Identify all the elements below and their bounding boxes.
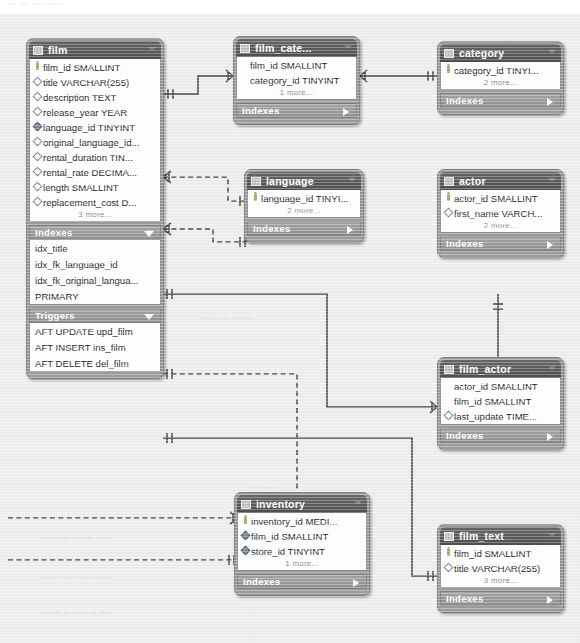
column-label: replacement_cost D... <box>43 197 136 208</box>
column-row[interactable]: rental_rate DECIMA... <box>30 165 160 180</box>
column-row[interactable]: film_id SMALLINT <box>441 546 560 561</box>
er-diagram-canvas[interactable]: •••••• ••• •••••••••••• •••• ••••••• •• … <box>0 14 580 643</box>
table-category[interactable]: categorycategory_id TINYI...2 more...Ind… <box>437 41 564 115</box>
chevron-right-icon[interactable] <box>343 108 349 116</box>
column-row[interactable]: rental_duration TIN... <box>30 150 160 165</box>
more-columns-label[interactable]: 3 more... <box>441 576 560 587</box>
section-label: Indexes <box>446 430 483 441</box>
column-row[interactable]: category_id TINYINT <box>237 73 356 88</box>
table-title-film[interactable]: film <box>29 41 161 59</box>
collapse-caret-icon[interactable] <box>548 178 556 182</box>
column-row[interactable]: film_id SMALLINT <box>238 529 366 544</box>
column-row[interactable]: replacement_cost D... <box>30 195 160 210</box>
column-row[interactable]: first_name VARCH... <box>441 206 560 221</box>
more-columns-label[interactable]: 2 more... <box>441 78 560 89</box>
chevron-right-icon[interactable] <box>347 226 353 234</box>
chevron-down-icon[interactable] <box>144 231 154 237</box>
more-columns-label[interactable]: 1 more... <box>238 559 366 570</box>
column-row[interactable]: release_year YEAR <box>30 105 160 120</box>
column-row[interactable]: store_id TINYINT <box>238 544 366 559</box>
section-row-item[interactable]: idx_fk_original_langua... <box>30 272 160 288</box>
collapse-caret-icon[interactable] <box>148 47 156 51</box>
column-diamond-icon <box>33 108 42 117</box>
chevron-right-icon[interactable] <box>547 433 553 441</box>
column-row[interactable]: inventory_id MEDI... <box>238 514 366 529</box>
table-film_text[interactable]: film_textfilm_id SMALLINTtitle VARCHAR(2… <box>437 524 564 613</box>
column-row[interactable]: film_id SMALLINT <box>30 60 160 75</box>
table-title-inventory[interactable]: inventory <box>237 495 367 513</box>
column-list-actor: actor_id SMALLINTfirst_name VARCH...2 mo… <box>440 190 561 233</box>
collapse-caret-icon[interactable] <box>548 366 556 370</box>
column-row[interactable]: film_id SMALLINT <box>237 58 356 73</box>
column-row[interactable]: film_id SMALLINT <box>441 394 560 409</box>
section-header-indexes-language[interactable]: Indexes <box>247 221 361 236</box>
more-columns-label[interactable]: 1 more... <box>237 88 356 99</box>
column-label: actor_id SMALLINT <box>454 381 538 392</box>
column-row[interactable]: last_update TIME... <box>441 409 560 424</box>
collapse-caret-icon[interactable] <box>344 45 352 49</box>
table-title-film_actor[interactable]: film_actor <box>440 360 561 378</box>
table-icon <box>251 177 261 186</box>
section-row-item[interactable]: AFT UPDATE upd_film <box>30 323 160 339</box>
foreign-key-icon <box>241 547 250 556</box>
column-label: title VARCHAR(255) <box>454 563 540 574</box>
table-title-category[interactable]: category <box>440 44 561 62</box>
section-header-indexes-film[interactable]: Indexes <box>29 225 161 240</box>
section-row-item[interactable]: idx_title <box>30 240 160 256</box>
section-header-indexes-film_actor[interactable]: Indexes <box>440 428 561 443</box>
section-header-triggers-film[interactable]: Triggers <box>29 308 161 323</box>
chevron-right-icon[interactable] <box>547 596 553 604</box>
table-title-film_category[interactable]: film_cate... <box>236 39 357 57</box>
section-rows: AFT UPDATE upd_filmAFT INSERT ins_filmAF… <box>29 323 161 372</box>
column-row[interactable]: original_language_id... <box>30 135 160 150</box>
table-film_category[interactable]: film_cate...film_id SMALLINTcategory_id … <box>233 36 360 125</box>
more-columns-label[interactable]: 3 more... <box>30 210 160 221</box>
collapse-caret-icon[interactable] <box>548 50 556 54</box>
section-row-item[interactable]: AFT INSERT ins_film <box>30 339 160 355</box>
table-film_actor[interactable]: film_actoractor_id SMALLINTfilm_id SMALL… <box>437 357 564 450</box>
collapse-caret-icon[interactable] <box>348 178 356 182</box>
table-title-actor[interactable]: actor <box>440 172 561 190</box>
chevron-down-icon[interactable] <box>144 314 154 320</box>
table-icon <box>240 44 250 53</box>
more-columns-label[interactable]: 2 more... <box>441 221 560 232</box>
section-header-indexes-inventory[interactable]: Indexes <box>237 574 367 589</box>
column-row[interactable]: title VARCHAR(255) <box>30 75 160 90</box>
chevron-right-icon[interactable] <box>353 579 359 587</box>
column-spacer-icon <box>240 76 249 85</box>
section-row-item[interactable]: AFT DELETE del_film <box>30 355 160 371</box>
table-title-language[interactable]: language <box>247 172 361 190</box>
table-title-film_text[interactable]: film_text <box>440 527 561 545</box>
column-label: rental_duration TIN... <box>43 152 133 163</box>
column-label: category_id TINYI... <box>454 65 539 76</box>
column-row[interactable]: language_id TINYI... <box>248 191 360 206</box>
collapse-caret-icon[interactable] <box>548 533 556 537</box>
section-header-indexes-film_text[interactable]: Indexes <box>440 591 561 606</box>
section-header-indexes-actor[interactable]: Indexes <box>440 236 561 251</box>
primary-key-icon <box>251 194 260 203</box>
column-row[interactable]: description TEXT <box>30 90 160 105</box>
section-row-item[interactable]: idx_fk_language_id <box>30 256 160 272</box>
column-row[interactable]: actor_id SMALLINT <box>441 379 560 394</box>
table-film[interactable]: filmfilm_id SMALLINTtitle VARCHAR(255)de… <box>26 38 164 379</box>
column-row[interactable]: title VARCHAR(255) <box>441 561 560 576</box>
section-header-indexes-film_category[interactable]: Indexes <box>236 103 357 118</box>
table-inventory[interactable]: inventoryinventory_id MEDI...film_id SMA… <box>234 492 370 596</box>
table-icon <box>444 365 454 374</box>
column-spacer-icon <box>444 397 453 406</box>
table-language[interactable]: languagelanguage_id TINYI...2 more...Ind… <box>244 169 364 243</box>
column-row[interactable]: actor_id SMALLINT <box>441 191 560 206</box>
chevron-right-icon[interactable] <box>547 98 553 106</box>
more-columns-label[interactable]: 2 more... <box>248 206 360 217</box>
column-row[interactable]: category_id TINYI... <box>441 63 560 78</box>
section-row-item[interactable]: PRIMARY <box>30 288 160 304</box>
section-label: Indexes <box>446 593 483 604</box>
column-row[interactable]: language_id TINYINT <box>30 120 160 135</box>
collapse-caret-icon[interactable] <box>354 501 362 505</box>
table-actor[interactable]: actoractor_id SMALLINTfirst_name VARCH..… <box>437 169 564 258</box>
column-diamond-icon <box>33 93 42 102</box>
primary-key-icon <box>241 517 250 526</box>
section-header-indexes-category[interactable]: Indexes <box>440 93 561 108</box>
column-row[interactable]: length SMALLINT <box>30 180 160 195</box>
chevron-right-icon[interactable] <box>547 241 553 249</box>
